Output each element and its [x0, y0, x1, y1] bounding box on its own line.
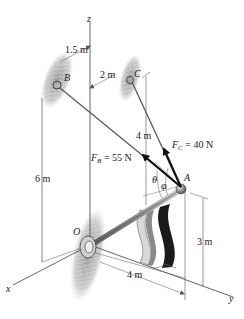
- point-b-label: B: [64, 73, 70, 83]
- wall-c: [114, 50, 147, 105]
- force-fc-subscript: C: [178, 144, 183, 152]
- x-axis-label: x: [6, 284, 10, 294]
- dim-4m-y-label: 4 m: [127, 270, 142, 280]
- theta-label: θ: [152, 175, 157, 185]
- dim-3m-label: 3 m: [197, 237, 212, 247]
- dim-4m-vertical-label: 4 m: [136, 131, 151, 141]
- dim-2m-label: 2 m: [100, 70, 115, 80]
- z-axis-label: z: [87, 14, 91, 24]
- force-fb-value: = 55 N: [104, 152, 132, 163]
- dim-3m-top-ext: [190, 193, 208, 199]
- phi-label: φ: [161, 181, 167, 191]
- y-axis-line: [90, 245, 233, 297]
- force-fb-subscript: B: [97, 157, 101, 165]
- dim-6m-label: 6 m: [35, 174, 50, 184]
- force-fb-label: FB = 55 N: [91, 153, 132, 165]
- force-fc-label: FC = 40 N: [172, 140, 213, 152]
- dim-1-5m-label: 1.5 m: [65, 45, 88, 55]
- force-fc-value: = 40 N: [185, 139, 213, 150]
- statics-diagram: z x y B C A O 1.5 m 2 m 4 m 6 m 3 m 4 m …: [0, 0, 244, 319]
- wall-b: [33, 45, 81, 115]
- y-axis-label: y: [229, 294, 233, 304]
- point-c-label: C: [134, 69, 141, 79]
- socket-o: [80, 236, 96, 258]
- point-a-label: A: [184, 173, 190, 183]
- origin-label: O: [73, 227, 80, 237]
